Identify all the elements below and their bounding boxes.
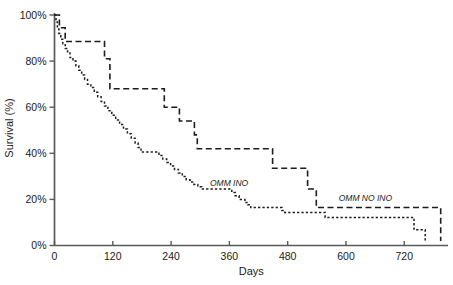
survival-figure: 01202403604806007200%20%40%60%80%100%Day… — [0, 0, 453, 285]
x-tick-label: 240 — [162, 250, 180, 262]
x-tick-label: 120 — [104, 250, 122, 262]
y-tick-label: 80% — [25, 55, 46, 67]
y-tick-label: 20% — [25, 193, 46, 205]
x-tick-label: 0 — [52, 250, 58, 262]
series-label-omm-no-ino: OMM NO INO — [339, 193, 393, 203]
x-tick-label: 600 — [337, 250, 355, 262]
y-tick-label: 0% — [31, 239, 46, 251]
y-axis-title: Survival (%) — [3, 98, 15, 157]
x-tick-label: 480 — [279, 250, 297, 262]
y-tick-label: 60% — [25, 101, 46, 113]
x-tick-label: 720 — [396, 250, 414, 262]
y-tick-label: 100% — [20, 9, 47, 21]
y-tick-label: 40% — [25, 147, 46, 159]
series-label-omm-ino: OMM INO — [210, 178, 249, 188]
x-axis-title: Days — [239, 265, 265, 277]
x-tick-label: 360 — [221, 250, 239, 262]
curve-omm-no-ino — [55, 15, 441, 241]
survival-chart: 01202403604806007200%20%40%60%80%100%Day… — [0, 0, 453, 285]
